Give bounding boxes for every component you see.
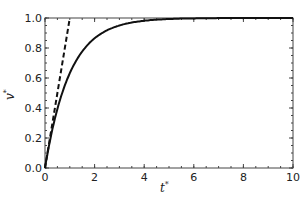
x-tick-labels: 0246810: [42, 171, 301, 184]
x-tick-label: 4: [141, 171, 148, 184]
y-tick-label: 0.8: [25, 42, 43, 55]
y-tick-label: 0.2: [25, 132, 43, 145]
solid-curve: [45, 18, 293, 168]
y-tick-label: 1.0: [25, 12, 43, 25]
x-tick-label: 10: [286, 171, 300, 184]
y-tick-label: 0.4: [25, 102, 43, 115]
x-tick-label: 0: [42, 171, 49, 184]
x-tick-label: 8: [240, 171, 247, 184]
x-tick-label: 6: [190, 171, 197, 184]
ticks: [45, 18, 293, 168]
y-tick-label: 0.6: [25, 72, 43, 85]
y-axis-label: v*: [2, 89, 17, 100]
plot-frame: [45, 18, 293, 168]
chart: 0246810 0.00.20.40.60.81.0 t* v*: [0, 0, 304, 207]
x-tick-label: 2: [91, 171, 98, 184]
y-tick-label: 0.0: [25, 162, 43, 175]
y-tick-labels: 0.00.20.40.60.81.0: [25, 12, 43, 175]
x-axis-label: t*: [160, 180, 169, 195]
